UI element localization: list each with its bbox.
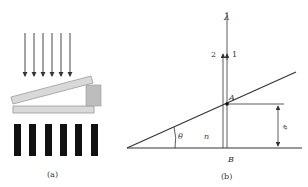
point-b-label: B [227, 155, 234, 164]
wedge-surface [127, 72, 296, 148]
top-glass-plate [11, 76, 93, 104]
ray-2-label: 2 [211, 50, 216, 59]
wavelength-label: λ [223, 12, 230, 22]
panel-b [127, 12, 302, 148]
wedge-interference-diagram: (a) λ 2 1 A θ n B e (b) [0, 0, 308, 187]
thickness-label: e [281, 125, 290, 130]
panel-a: (a) [11, 33, 101, 179]
spacer-block [86, 85, 101, 106]
point-a-label: A [228, 93, 235, 102]
panel-b-labels: λ 2 1 A θ n B e (b) [178, 12, 290, 181]
incident-light-arrows [25, 33, 70, 76]
index-label: n [204, 132, 209, 141]
angle-arc [174, 127, 176, 148]
caption-a: (a) [47, 170, 58, 179]
ray-1-label: 1 [232, 50, 237, 59]
interference-fringes [13, 124, 98, 156]
caption-b: (b) [221, 172, 232, 181]
bottom-glass-plate [13, 106, 94, 113]
point-a [225, 102, 229, 106]
angle-label: θ [178, 132, 183, 141]
